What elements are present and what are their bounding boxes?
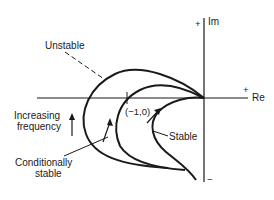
nyquist-diagram: + Re + Im − (−1,0) xyxy=(0,0,274,200)
increasing-label: Increasing xyxy=(14,110,60,121)
stable-label: Stable xyxy=(169,131,198,142)
imag-axis: + Im − xyxy=(195,16,219,185)
increasing-frequency-arrow xyxy=(69,113,75,136)
unstable-leader-line xyxy=(65,52,104,79)
imag-axis-minus-sign: − xyxy=(207,174,213,185)
real-axis-label: Re xyxy=(252,92,265,103)
unstable-label: Unstable xyxy=(45,40,85,51)
unstable-curve xyxy=(84,70,204,168)
imag-axis-plus-sign: + xyxy=(195,18,201,29)
critical-point-label: (−1,0) xyxy=(125,106,150,117)
conditionally-label: Conditionally xyxy=(15,157,72,168)
imag-axis-label: Im xyxy=(208,16,219,27)
frequency-label: frequency xyxy=(17,121,61,132)
stable-label-line2: stable xyxy=(35,168,62,179)
real-axis-plus-sign: + xyxy=(243,84,249,95)
stable-leader-line xyxy=(153,131,168,136)
